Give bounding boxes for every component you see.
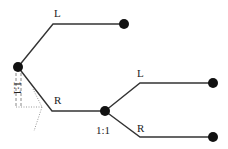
edge-root-R <box>18 67 105 111</box>
node-mid-L-leaf <box>208 78 218 88</box>
label-root-R: R <box>54 94 62 106</box>
label-mid-R: R <box>137 122 145 134</box>
node-mid-R-leaf <box>208 132 218 142</box>
node-root <box>13 62 23 72</box>
edge-root-L <box>18 24 124 67</box>
label-mid-L: L <box>137 67 144 79</box>
edge-mid-L <box>105 83 213 111</box>
edge-mid-R <box>105 111 213 137</box>
node-mid <box>100 106 110 116</box>
node-root-L-leaf <box>119 19 129 29</box>
label-mid-info: 1:1 <box>96 124 110 136</box>
label-root-L: L <box>54 7 61 19</box>
label-root-info: 1:1 <box>12 81 24 95</box>
guide-dotted-tail <box>34 107 42 131</box>
game-tree-diagram: L R 1:1 L R 1:1 <box>0 0 228 149</box>
